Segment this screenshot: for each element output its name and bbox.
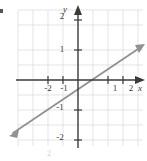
x-tick-label-neg1: -1 <box>57 84 71 93</box>
y-tick-label-neg1: -1 <box>53 103 67 112</box>
stray-glyph: 2 <box>44 150 54 158</box>
x-tick-label-1: 1 <box>110 84 120 93</box>
y-tick-label-1: 1 <box>57 45 67 54</box>
plotted-line <box>9 44 145 138</box>
y-tick-label-2: 2 <box>57 12 67 21</box>
line-arrow-start <box>9 130 19 138</box>
x-tick-label-neg2: -2 <box>41 84 55 93</box>
graph-figure: y x 2 1 -1 -2 -2 -1 1 2 2 <box>0 0 147 161</box>
grid-lines <box>18 10 143 146</box>
line-arrow-end <box>135 44 145 53</box>
x-tick-label-2: 2 <box>126 84 136 93</box>
x-axis-label: x <box>138 84 142 93</box>
coordinate-plane-svg <box>0 0 147 161</box>
y-tick-label-neg2: -2 <box>53 133 67 142</box>
axes-lines <box>16 12 139 148</box>
